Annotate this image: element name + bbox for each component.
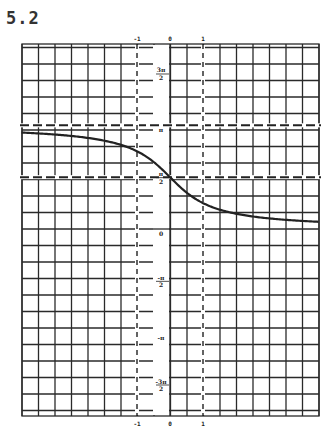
x-tick-bottom: -1 (133, 420, 141, 427)
x-tick-top: -1 (133, 35, 141, 42)
axis-labels: -1-100113π2ππ20-π2-π-3π2 (133, 35, 205, 427)
y-label-neg-pi: -π (158, 334, 165, 341)
y-label-neg-pi-over-2-num: -π (158, 274, 165, 281)
y-label-neg-3pi-over-2-den: 2 (159, 385, 163, 392)
chart: -1-100113π2ππ20-π2-π-3π2 (0, 0, 335, 436)
y-label-pi: π (159, 126, 164, 133)
y-label-3pi-over-2-num: 3π (157, 66, 166, 73)
y-label-pi-over-2-den: 2 (159, 178, 163, 185)
y-label-neg-3pi-over-2-num: -3π (155, 378, 167, 385)
x-tick-bottom: 1 (201, 420, 205, 427)
y-label-3pi-over-2-den: 2 (159, 74, 163, 81)
y-label-zero: 0 (159, 230, 163, 237)
asymptotes (20, 44, 321, 416)
x-tick-top: 0 (168, 35, 172, 42)
y-label-neg-pi-over-2-den: 2 (159, 281, 163, 288)
x-tick-bottom: 0 (168, 420, 172, 427)
x-tick-top: 1 (201, 35, 205, 42)
y-label-pi-over-2-num: π (159, 170, 164, 177)
